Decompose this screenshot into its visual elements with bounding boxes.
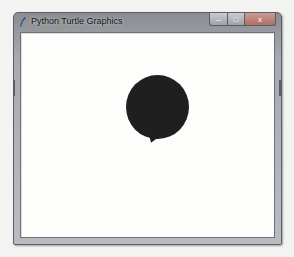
- close-button[interactable]: x: [245, 13, 276, 26]
- close-icon: x: [258, 15, 262, 24]
- filled-circle: [126, 75, 189, 139]
- feather-icon: [19, 17, 27, 27]
- title-bar[interactable]: Python Turtle Graphics – □ x: [14, 13, 281, 31]
- maximize-button[interactable]: □: [228, 13, 245, 26]
- window-controls: – □ x: [209, 13, 276, 26]
- right-resize-edge[interactable]: [279, 80, 281, 96]
- turtle-window: Python Turtle Graphics – □ x: [13, 12, 282, 245]
- maximize-icon: □: [234, 15, 239, 24]
- minimize-button[interactable]: –: [209, 13, 228, 26]
- left-resize-edge[interactable]: [13, 80, 15, 96]
- turtle-canvas[interactable]: [20, 32, 275, 238]
- minimize-icon: –: [216, 15, 220, 24]
- window-title: Python Turtle Graphics: [31, 16, 123, 26]
- turtle-arrow-icon: [147, 136, 157, 144]
